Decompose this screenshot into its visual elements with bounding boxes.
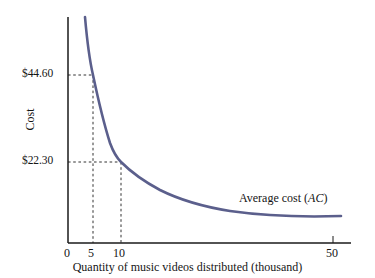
- average-cost-curve-label: Average cost (AC): [239, 191, 327, 206]
- x-axis-tick-label-10: 10: [113, 246, 125, 261]
- y-axis-tick-label-22-30: $22.30: [22, 154, 53, 166]
- average-cost-chart-figure: $44.60 $22.30 Cost 0 5 10 50 Quantity of…: [0, 0, 375, 278]
- x-axis-tick-label-5: 5: [88, 246, 94, 261]
- y-axis-tick-label-44-60: $44.60: [22, 67, 53, 79]
- chart-plot-area: [0, 0, 375, 278]
- y-axis-title: Cost: [23, 85, 38, 155]
- x-axis-tick-label-50: 50: [326, 246, 338, 261]
- x-axis-tick-label-0: 0: [64, 246, 70, 261]
- curve-label-abbreviation: AC: [308, 191, 323, 205]
- average-cost-curve: [85, 17, 341, 216]
- curve-label-close-paren: ): [323, 191, 327, 205]
- curve-label-text: Average cost (: [239, 191, 308, 205]
- x-axis-title: Quantity of music videos distributed (th…: [0, 260, 375, 275]
